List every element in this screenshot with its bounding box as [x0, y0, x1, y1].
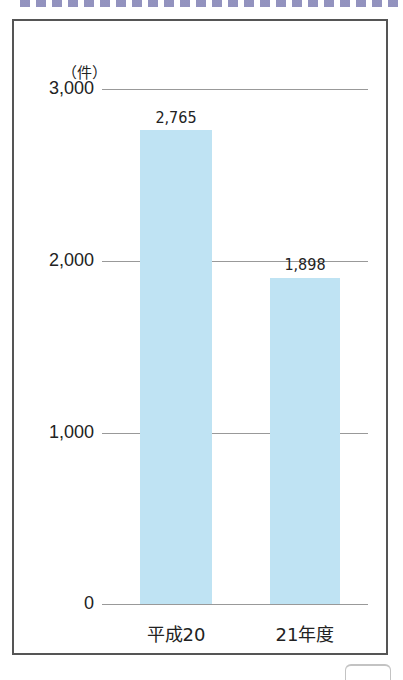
gridline-3000: [102, 89, 368, 90]
y-tick-0: 0: [14, 593, 94, 614]
cropped-header-text: [20, 0, 400, 7]
y-tick-2000: 2,000: [14, 250, 94, 271]
bar-value-label: 2,765: [126, 108, 226, 127]
cropped-source-caption: [345, 664, 391, 680]
y-tick-3000: 3,000: [14, 78, 94, 99]
x-label-21nendo: 21年度: [245, 620, 365, 646]
bar-heisei20: [140, 130, 212, 604]
x-label-heisei20: 平成20: [116, 620, 236, 646]
baseline-0: [102, 604, 368, 605]
bar-value-label: 1,898: [255, 255, 355, 274]
bar-21nendo: [270, 278, 340, 604]
y-tick-1000: 1,000: [14, 422, 94, 443]
